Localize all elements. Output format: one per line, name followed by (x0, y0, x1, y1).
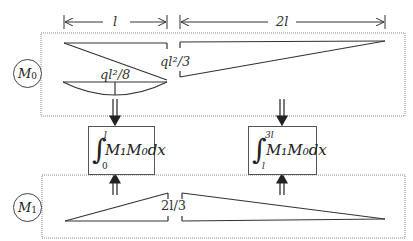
integral-box-0-to-l: ∫ l 0 M₁M₀dx (88, 126, 155, 175)
m0-label-sub: 0 (31, 71, 37, 81)
m1-triangles (65, 193, 385, 221)
integral-box-l-to-3l: ∫ 3l l M₁M₀dx (248, 126, 317, 175)
m0-triangle-peak-value: ql²/3 (160, 55, 190, 68)
m0-label: M (18, 66, 31, 81)
m1-peak-value: 2l/3 (161, 199, 186, 212)
m0-parabola (63, 82, 167, 95)
m0-parabola-peak-value: ql²/8 (100, 68, 130, 81)
integral-expression: M₁M₀dx (105, 143, 166, 158)
dimension-label-2l: 2l (276, 15, 288, 28)
integral-lower-limit: l (262, 162, 265, 171)
integral-upper-limit: l (104, 131, 107, 140)
m1-label-sub: 1 (31, 205, 37, 215)
integral-expression: M₁M₀dx (266, 143, 327, 158)
diagram-canvas (0, 0, 413, 241)
m1-label-circle: M1 (13, 193, 42, 222)
m0-label-circle: M0 (13, 59, 42, 88)
m0-panel-border (41, 33, 405, 116)
m1-label: M (18, 200, 31, 215)
integral-upper-limit: 3l (265, 131, 274, 140)
integral-sign-icon: ∫ (252, 136, 267, 164)
m0-right-triangle (180, 41, 385, 77)
m1-panel-border (42, 175, 405, 238)
dimension-label-l: l (113, 15, 117, 28)
integral-lower-limit: 0 (102, 162, 108, 171)
